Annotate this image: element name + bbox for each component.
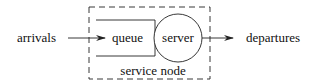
- arrivals-label: arrivals: [17, 30, 56, 45]
- queue-label: queue: [112, 30, 143, 45]
- departures-label: departures: [246, 30, 300, 45]
- server-label: server: [162, 30, 194, 45]
- queue-diagram: arrivals queue server departures service…: [0, 0, 315, 84]
- service-node-label: service node: [120, 63, 186, 78]
